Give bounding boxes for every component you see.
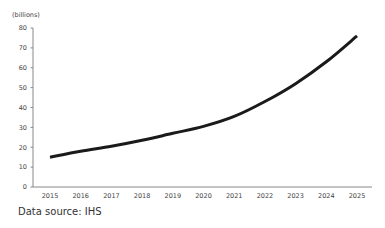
x-tick-label: 2016 xyxy=(72,192,89,200)
y-tick-label: 80 xyxy=(19,24,27,32)
data-source-note: Data source: IHS xyxy=(18,206,102,217)
x-tick-label: 2017 xyxy=(103,192,120,200)
y-tick-label: 20 xyxy=(19,144,27,152)
x-tick-label: 2019 xyxy=(165,192,182,200)
series-line xyxy=(50,36,357,157)
y-tick-label: 50 xyxy=(19,84,27,92)
x-tick-label: 2024 xyxy=(318,192,335,200)
x-tick-label: 2018 xyxy=(134,192,151,200)
x-tick-label: 2023 xyxy=(287,192,304,200)
y-tick-label: 0 xyxy=(23,183,27,191)
y-tick-label: 30 xyxy=(19,124,27,132)
y-tick-label: 60 xyxy=(19,64,27,72)
y-tick-label: 10 xyxy=(19,163,27,171)
y-unit-label: (billions) xyxy=(12,11,40,19)
x-tick-label: 2015 xyxy=(42,192,59,200)
line-chart: (billions) 01020304050607080 20152016201… xyxy=(0,0,385,228)
x-tick-label: 2025 xyxy=(349,192,366,200)
x-tick-label: 2020 xyxy=(195,192,212,200)
y-axis: 01020304050607080 xyxy=(19,24,33,191)
x-tick-label: 2021 xyxy=(226,192,243,200)
y-tick-label: 70 xyxy=(19,44,27,52)
x-tick-label: 2022 xyxy=(257,192,274,200)
y-tick-label: 40 xyxy=(19,104,27,112)
x-axis: 2015201620172018201920202021202220232024… xyxy=(33,187,372,200)
